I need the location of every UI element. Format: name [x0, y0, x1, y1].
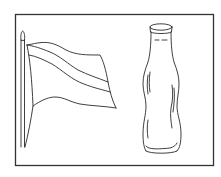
illustration — [0, 0, 221, 177]
bottle-lip — [150, 24, 172, 30]
picture-card — [0, 0, 221, 177]
flag-pole — [21, 40, 25, 147]
flag-icon — [21, 31, 116, 147]
bottle-icon — [143, 24, 181, 153]
frame-border — [16, 15, 214, 166]
flag-finial — [21, 31, 25, 40]
